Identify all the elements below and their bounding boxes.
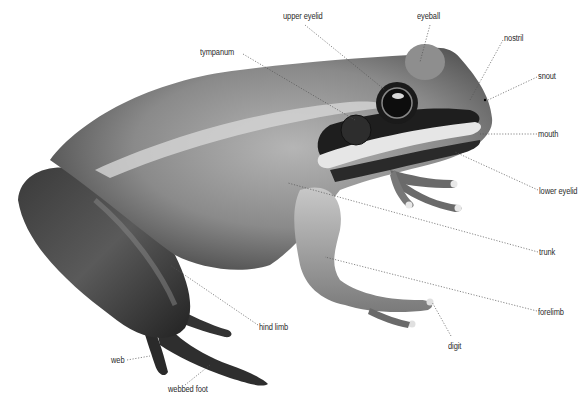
label-upper-eyelid: upper eyelid bbox=[283, 11, 323, 21]
label-hind-limb: hind limb bbox=[259, 322, 288, 332]
label-digit: digit bbox=[448, 341, 461, 351]
label-mouth: mouth bbox=[538, 129, 558, 139]
label-forelimb: forelimb bbox=[538, 307, 564, 317]
label-snout: snout bbox=[538, 71, 556, 81]
label-webbed-foot: webbed foot bbox=[168, 384, 208, 394]
label-tympanum: tympanum bbox=[200, 47, 234, 57]
label-lower-eyelid: lower eyelid bbox=[539, 186, 577, 196]
eye bbox=[376, 82, 418, 124]
forelimb-shape bbox=[294, 170, 461, 328]
tympanum-shape bbox=[341, 115, 371, 145]
label-web: web bbox=[111, 355, 124, 365]
label-trunk: trunk bbox=[539, 247, 555, 257]
label-eyeball: eyeball bbox=[417, 11, 440, 21]
label-nostril: nostril bbox=[504, 33, 523, 43]
frog-anatomy-diagram: upper eyelid eyeball nostril snout tympa… bbox=[0, 0, 583, 407]
frog-illustration bbox=[0, 0, 583, 407]
